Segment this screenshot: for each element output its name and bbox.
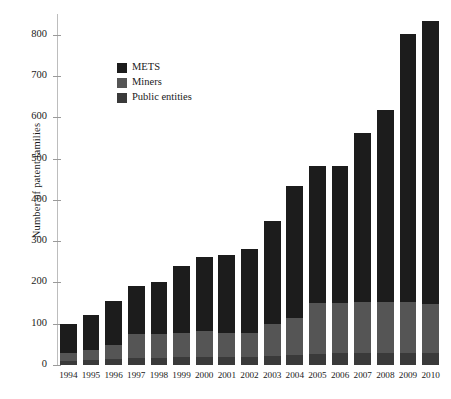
bar-segment-mets bbox=[60, 324, 77, 354]
bar-segment-public-entities bbox=[377, 353, 394, 365]
bar-segment-miners bbox=[241, 333, 258, 357]
bar-2003[interactable] bbox=[264, 221, 281, 365]
bar-segment-public-entities bbox=[422, 353, 439, 365]
x-axis-tick-label: 1997 bbox=[125, 370, 148, 380]
x-axis-tick-label: 2009 bbox=[397, 370, 420, 380]
bar-segment-public-entities bbox=[196, 357, 213, 365]
legend-swatch-icon bbox=[117, 78, 127, 88]
bar-2005[interactable] bbox=[309, 166, 326, 365]
bar-segment-public-entities bbox=[173, 357, 190, 365]
bar-segment-mets bbox=[83, 315, 100, 350]
bar-segment-mets bbox=[309, 166, 326, 303]
bar-segment-mets bbox=[241, 249, 258, 333]
legend-label: Miners bbox=[132, 77, 162, 88]
bar-segment-mets bbox=[196, 257, 213, 331]
y-axis-tick-label: 0 bbox=[42, 359, 47, 370]
bars-container bbox=[57, 14, 442, 365]
bar-segment-public-entities bbox=[332, 353, 349, 365]
bar-segment-mets bbox=[422, 21, 439, 304]
bar-segment-miners bbox=[377, 302, 394, 352]
bar-segment-public-entities bbox=[241, 357, 258, 365]
bar-2010[interactable] bbox=[422, 21, 439, 365]
x-axis-tick-label: 1998 bbox=[148, 370, 171, 380]
bar-segment-miners bbox=[354, 302, 371, 352]
bar-2001[interactable] bbox=[218, 255, 235, 365]
bar-2004[interactable] bbox=[286, 186, 303, 365]
bar-segment-public-entities bbox=[83, 360, 100, 365]
x-axis-tick-label: 2001 bbox=[216, 370, 239, 380]
bar-segment-mets bbox=[128, 286, 145, 334]
x-axis-tick-label: 1994 bbox=[57, 370, 80, 380]
bar-segment-public-entities bbox=[354, 353, 371, 365]
bar-segment-miners bbox=[332, 303, 349, 353]
bar-segment-public-entities bbox=[128, 358, 145, 365]
bar-segment-public-entities bbox=[264, 356, 281, 365]
bar-1996[interactable] bbox=[105, 301, 122, 365]
bar-segment-miners bbox=[286, 318, 303, 355]
y-axis-tick-label: 100 bbox=[31, 318, 47, 329]
legend-label: METS bbox=[132, 62, 160, 73]
bar-2007[interactable] bbox=[354, 133, 371, 365]
bar-segment-mets bbox=[354, 133, 371, 302]
bar-1997[interactable] bbox=[128, 286, 145, 365]
bar-segment-miners bbox=[151, 334, 168, 358]
bar-segment-mets bbox=[218, 255, 235, 333]
x-axis-tick-label: 2010 bbox=[419, 370, 442, 380]
bar-1995[interactable] bbox=[83, 315, 100, 365]
legend-item-mets[interactable]: METS bbox=[117, 61, 192, 74]
bar-segment-public-entities bbox=[400, 353, 417, 365]
bar-segment-public-entities bbox=[309, 354, 326, 365]
bar-segment-mets bbox=[332, 166, 349, 303]
bar-segment-miners bbox=[400, 302, 417, 352]
bar-segment-public-entities bbox=[286, 355, 303, 365]
x-axis-tick-label: 2003 bbox=[261, 370, 284, 380]
y-axis-tick-label: 400 bbox=[31, 194, 47, 205]
x-axis-tick-label: 2006 bbox=[329, 370, 352, 380]
bar-segment-mets bbox=[173, 266, 190, 333]
bar-1999[interactable] bbox=[173, 266, 190, 365]
chart-legend: METSMinersPublic entities bbox=[117, 61, 192, 106]
bar-segment-miners bbox=[264, 324, 281, 356]
legend-label: Public entities bbox=[132, 92, 192, 103]
stacked-bar-chart: Number of patent families 01002003004005… bbox=[0, 0, 451, 399]
bar-segment-public-entities bbox=[151, 358, 168, 365]
bar-2008[interactable] bbox=[377, 110, 394, 365]
bar-segment-miners bbox=[83, 350, 100, 360]
y-axis-tick-label: 600 bbox=[31, 111, 47, 122]
bar-segment-public-entities bbox=[60, 361, 77, 365]
y-axis-tick-label: 300 bbox=[31, 235, 47, 246]
bar-segment-mets bbox=[151, 282, 168, 334]
bar-1994[interactable] bbox=[60, 324, 77, 365]
bar-segment-mets bbox=[264, 221, 281, 323]
bar-segment-miners bbox=[173, 333, 190, 357]
y-axis-tick-label: 800 bbox=[31, 29, 47, 40]
bar-segment-mets bbox=[377, 110, 394, 302]
bar-2000[interactable] bbox=[196, 257, 213, 365]
bar-segment-miners bbox=[196, 331, 213, 357]
x-axis-tick-label: 1995 bbox=[80, 370, 103, 380]
bar-2002[interactable] bbox=[241, 249, 258, 365]
bar-1998[interactable] bbox=[151, 282, 168, 365]
x-axis-tick-label: 2005 bbox=[306, 370, 329, 380]
bar-segment-miners bbox=[105, 345, 122, 359]
bar-segment-miners bbox=[422, 304, 439, 352]
bar-segment-mets bbox=[286, 186, 303, 318]
bar-segment-miners bbox=[218, 333, 235, 357]
legend-item-miners[interactable]: Miners bbox=[117, 76, 192, 89]
y-axis-tick bbox=[53, 365, 61, 366]
x-axis-tick-label: 2008 bbox=[374, 370, 397, 380]
x-axis-tick-label: 2007 bbox=[351, 370, 374, 380]
bar-segment-mets bbox=[105, 301, 122, 345]
legend-item-public-entities[interactable]: Public entities bbox=[117, 91, 192, 104]
bar-2006[interactable] bbox=[332, 166, 349, 365]
x-axis-tick-label: 1999 bbox=[170, 370, 193, 380]
bar-segment-miners bbox=[128, 334, 145, 358]
x-axis-tick-label: 1996 bbox=[102, 370, 125, 380]
x-axis-tick-label: 2004 bbox=[283, 370, 306, 380]
y-axis-tick-label: 700 bbox=[31, 70, 47, 81]
bar-2009[interactable] bbox=[400, 34, 417, 365]
x-axis-tick-label: 2002 bbox=[238, 370, 261, 380]
legend-swatch-icon bbox=[117, 93, 127, 103]
bar-segment-public-entities bbox=[105, 359, 122, 365]
bar-segment-miners bbox=[309, 303, 326, 354]
